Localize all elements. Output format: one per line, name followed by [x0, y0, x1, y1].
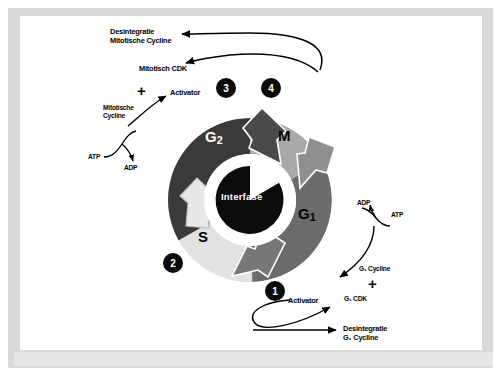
- label-atp-bottom: ATP: [391, 211, 403, 218]
- interfase-label: Interfase: [221, 191, 262, 202]
- step-marker-3[interactable]: 3: [216, 78, 236, 98]
- label-activator-top: Activator: [170, 89, 200, 97]
- label-g1-cycline: G₁ Cycline: [359, 265, 390, 272]
- ring-label-g2: G2: [205, 128, 223, 146]
- label-plus-bottom: +: [368, 276, 377, 293]
- arrow-mitotic-cdk: [186, 54, 318, 72]
- ring-label-s: S: [198, 228, 208, 245]
- figure-page: G2 M G1 S Interfase 3 4 2 1 Desintegrati…: [0, 0, 501, 383]
- arrow-to-activator-top: [128, 96, 166, 126]
- label-mitotic-disintegration-line2: Mitotische Cycline: [110, 37, 171, 45]
- label-mitotic-cycline-line2: Cycline: [103, 112, 125, 119]
- label-mitotic-cdk: Mitotisch CDK: [139, 65, 187, 73]
- label-g1-disintegration-line2: G₁ Cycline: [343, 334, 378, 342]
- label-adp-top: ADP: [124, 164, 137, 171]
- step-marker-1[interactable]: 1: [265, 281, 285, 301]
- label-mitotic-cycline-line1: Mitotische: [103, 104, 134, 111]
- step-marker-2[interactable]: 2: [163, 253, 183, 273]
- label-activator-bottom: Activator: [288, 297, 318, 305]
- ring-label-g1: G1: [298, 205, 316, 223]
- label-g1-cdk: G₁ CDK: [344, 295, 367, 302]
- step-marker-4[interactable]: 4: [261, 78, 281, 98]
- arrow-adp-up-bottom: [370, 205, 376, 218]
- arrow-mitotic-disintegration: [182, 33, 322, 70]
- ring-label-m: M: [278, 127, 291, 144]
- label-atp-top: ATP: [88, 153, 100, 160]
- arrow-atp-adp-top: [104, 131, 136, 157]
- label-plus-top: +: [137, 83, 146, 100]
- label-adp-bottom: ADP: [357, 199, 370, 206]
- arrow-adp-down-top: [122, 144, 133, 161]
